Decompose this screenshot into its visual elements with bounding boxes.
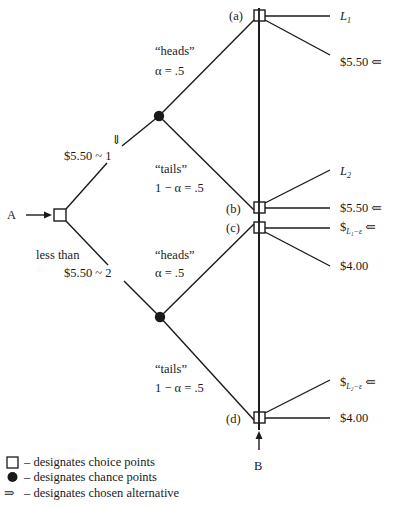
chosen-arrow-icon: ⇐ xyxy=(365,220,375,234)
point-label-c: (c) xyxy=(226,221,240,235)
outcome-a-L1: L1 xyxy=(340,9,351,28)
lower-heads-label: “heads” xyxy=(155,248,195,262)
chosen-arrow-icon: ⇐ xyxy=(371,55,381,69)
lower-heads-prob: α = .5 xyxy=(155,266,184,280)
edge-b-L2 xyxy=(265,170,330,203)
outcome-b-L2: L2 xyxy=(340,164,351,183)
point-label-b: (b) xyxy=(226,202,241,216)
upper-heads-label: “heads” xyxy=(155,44,195,58)
lower-tails-prob: 1 − α = .5 xyxy=(155,381,204,395)
lottery-symbol: L xyxy=(340,164,347,178)
choice-node-a-start xyxy=(54,209,66,221)
lower-choice-label-line2: $5.50 ~ 2 xyxy=(64,266,111,280)
edge-c-400 xyxy=(265,232,330,266)
price-text: $4.00 xyxy=(340,259,368,273)
price-text: $5.50 xyxy=(340,201,368,215)
arrow-a-head xyxy=(44,212,52,219)
outcome-a-550: $5.50 ⇐ xyxy=(340,55,382,69)
outcome-d-400: $4.00 xyxy=(340,411,368,425)
legend-item-chosen: ⇒– designates chosen alternative xyxy=(4,486,179,500)
edge-d-L2e xyxy=(265,380,330,413)
point-label-d: (d) xyxy=(226,412,241,426)
edge-a-550 xyxy=(265,20,330,55)
edge-a-to-chance-upper-2 xyxy=(122,116,159,146)
upper-heads-prob: α = .5 xyxy=(155,64,184,78)
lower-tails-label: “tails” xyxy=(155,362,187,376)
legend-item-chance: – designates chance points xyxy=(4,470,157,484)
price-text: $4.00 xyxy=(340,411,368,425)
cut-label-b: B xyxy=(254,459,262,473)
legend-text: – designates chance points xyxy=(24,470,157,484)
chosen-down-arrow-icon: ⇓ xyxy=(111,133,121,147)
lottery-subscript: 1 xyxy=(347,16,351,25)
upper-tails-label: “tails” xyxy=(155,162,187,176)
start-node-label: A xyxy=(7,208,16,222)
chosen-right-arrow-icon: ⇒ xyxy=(4,486,24,500)
chosen-arrow-icon: ⇐ xyxy=(371,201,381,215)
lower-choice-label-line1: less than xyxy=(36,248,79,262)
outcome-b-550: $5.50 ⇐ xyxy=(340,201,382,215)
edge-a-to-chance-upper xyxy=(66,163,107,209)
point-label-a: (a) xyxy=(229,9,243,23)
arrow-b-head xyxy=(256,431,263,439)
outcome-c-400: $4.00 xyxy=(340,259,368,273)
legend-item-choice: – designates choice points xyxy=(4,455,155,469)
legend-text: – designates chosen alternative xyxy=(24,486,179,500)
lottery-subscript: 2 xyxy=(347,171,351,180)
upper-tails-prob: 1 − α = .5 xyxy=(155,181,204,195)
outcome-d-L2e: $L₂−ε ⇐ xyxy=(340,375,376,394)
price-text: $5.50 xyxy=(340,55,368,69)
chance-node-upper xyxy=(154,111,164,121)
edge-a-to-chance-lower-2 xyxy=(124,281,160,317)
legend-text: – designates choice points xyxy=(24,455,155,469)
outcome-c-L1e: $L₁−ε ⇐ xyxy=(340,220,376,239)
upper-choice-label: $5.50 ~ 1 xyxy=(64,149,111,163)
certainty-equiv-subscript: L₁−ε xyxy=(346,227,362,236)
chosen-arrow-icon: ⇐ xyxy=(365,375,375,389)
lottery-symbol: L xyxy=(340,9,347,23)
chance-node-lower xyxy=(155,312,165,322)
certainty-equiv-subscript: L₂−ε xyxy=(346,382,362,391)
